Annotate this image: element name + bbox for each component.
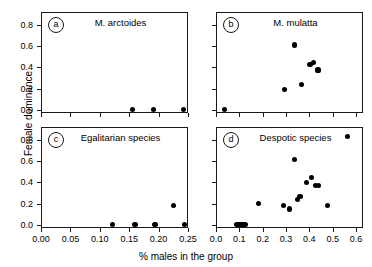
data-point [281,203,286,208]
panel-b-title: M. mulatta [217,17,362,29]
x-tick [41,113,42,117]
y-tick [212,67,216,68]
x-tick [263,113,264,117]
x-tick [188,113,189,117]
y-tick [212,140,216,141]
data-point [287,206,292,211]
y-tick [212,225,216,226]
figure-container: Female dominance % males in the group a … [0,0,372,267]
x-tick [159,113,160,117]
y-tick-label: 0.0 [3,106,33,115]
panel-d: d Despotic species [216,127,363,228]
y-tick-label: 0.8 [3,136,33,145]
y-tick [37,67,41,68]
x-tick [188,228,189,232]
y-tick [212,182,216,183]
y-tick-label: 0.2 [3,200,33,209]
data-point [242,222,247,227]
x-tick-label: 0.25 [173,235,203,244]
panel-b: b M. mulatta [216,12,363,113]
y-tick-label: 0.6 [3,42,33,51]
x-tick [70,113,71,117]
x-tick-label: 0.15 [114,235,144,244]
data-point [297,194,302,199]
x-tick-label: 0.20 [144,235,174,244]
x-tick [129,113,130,117]
x-tick [100,228,101,232]
x-tick-label: 0.00 [26,235,56,244]
x-tick-label: 0.05 [55,235,85,244]
data-point [309,175,314,180]
x-tick [286,228,287,232]
y-tick [37,25,41,26]
x-tick [159,228,160,232]
panel-c-title: Egalitarian species [42,132,187,144]
x-tick-label: 0.10 [85,235,115,244]
x-tick [216,113,217,117]
x-tick [100,113,101,117]
y-tick [212,110,216,111]
x-tick [41,228,42,232]
y-tick [37,110,41,111]
y-tick [37,225,41,226]
y-tick [37,140,41,141]
data-point [315,67,320,72]
x-tick [356,228,357,232]
y-tick-label: 0.2 [3,85,33,94]
y-tick [37,161,41,162]
y-tick [37,182,41,183]
y-tick-label: 0.6 [3,157,33,166]
y-tick [212,161,216,162]
x-axis-label: % males in the group [0,251,372,262]
y-tick-label: 0.0 [3,221,33,230]
x-tick [263,228,264,232]
x-tick [129,228,130,232]
x-tick [333,113,334,117]
x-tick [309,228,310,232]
y-tick-label: 0.4 [3,63,33,72]
panel-a: a M. arctoides [41,12,188,113]
data-point [325,203,330,208]
x-tick [333,228,334,232]
y-tick [37,204,41,205]
y-tick [37,46,41,47]
y-tick-label: 0.8 [3,21,33,30]
y-tick-label: 0.4 [3,178,33,187]
y-tick [37,89,41,90]
x-tick [239,113,240,117]
x-tick [309,113,310,117]
x-tick [239,228,240,232]
y-tick [212,46,216,47]
x-tick [286,113,287,117]
x-tick-label: 0.6 [341,235,371,244]
panel-c: c Egalitarian species [41,127,188,228]
y-tick [212,89,216,90]
x-tick [70,228,71,232]
panel-d-title: Despotic species [217,132,362,144]
y-tick [212,204,216,205]
panel-a-title: M. arctoides [42,17,187,29]
y-tick [212,25,216,26]
x-tick [216,228,217,232]
x-tick [356,113,357,117]
